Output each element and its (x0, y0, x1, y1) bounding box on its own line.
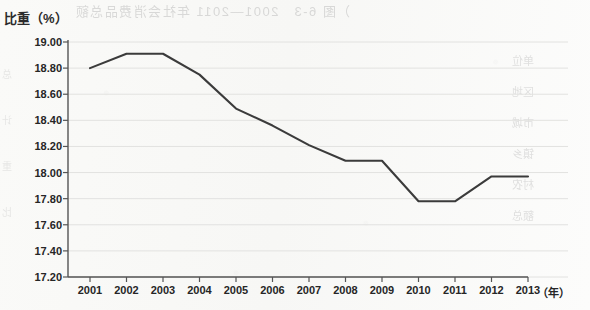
x-axis-tick-label: 2010 (399, 284, 439, 296)
axis-lines (68, 40, 528, 277)
y-axis-tick-label: 17.20 (14, 271, 62, 283)
y-axis-tick-label: 17.60 (14, 219, 62, 231)
x-axis-tick-label: 2008 (326, 284, 366, 296)
x-axis-tick-label: 2009 (362, 284, 402, 296)
y-axis-tick-label: 19.00 (14, 36, 62, 48)
x-axis-tick-label: 2001 (70, 284, 110, 296)
x-axis-tick-label: 2012 (472, 284, 512, 296)
y-axis-tick-label: 18.40 (14, 114, 62, 126)
y-axis-tick-label: 18.20 (14, 140, 62, 152)
y-axis-tick-label: 18.60 (14, 88, 62, 100)
x-axis-tick-label: 2004 (180, 284, 220, 296)
axis-ticks (63, 42, 528, 282)
chart-screenshot: ）图 6-3 2001—2011 年社会消费品总额 单位区地市城镇乡村农额总 总… (0, 0, 590, 310)
x-axis-tick-label: 2005 (216, 284, 256, 296)
x-axis-tick-label: 2003 (143, 284, 183, 296)
data-series-line (90, 54, 528, 202)
y-axis-tick-label: 17.40 (14, 245, 62, 257)
y-axis-tick-label: 17.80 (14, 193, 62, 205)
x-axis-tick-label: 2002 (107, 284, 147, 296)
x-axis-tick-label: 2011 (435, 284, 475, 296)
y-axis-tick-label: 18.80 (14, 62, 62, 74)
x-axis-tick-label: 2006 (253, 284, 293, 296)
x-axis-tick-label: 2007 (289, 284, 329, 296)
gridlines (68, 42, 568, 277)
chart-canvas (0, 0, 590, 310)
plot-area: 19.0018.8018.6018.4018.2018.0017.8017.60… (0, 0, 590, 310)
x-axis-unit-label: （年） (537, 284, 570, 300)
y-axis-tick-label: 18.00 (14, 167, 62, 179)
